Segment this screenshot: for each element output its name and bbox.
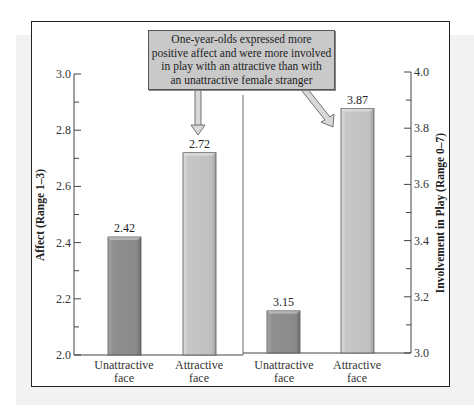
left-tick-label: 2.4 [56, 236, 71, 250]
callout-box: One-year-olds expressed more positive af… [148, 30, 335, 90]
bar-value-label: 2.72 [189, 137, 210, 151]
right-tick-label: 3.6 [414, 177, 429, 191]
right-tick-label: 3.0 [414, 346, 429, 360]
down-arrow-icon [191, 90, 205, 135]
category-label: face [114, 371, 134, 385]
bar-value-label: 3.87 [347, 93, 368, 107]
bar-affect-attractive [183, 153, 216, 355]
category-label: face [347, 371, 367, 385]
left-axis-title: Affect (Range 1–3) [34, 169, 47, 261]
left-tick-label: 3.0 [56, 67, 71, 81]
left-tick-label: 2.8 [56, 123, 71, 137]
left-tick-label: 2.2 [56, 292, 71, 306]
callout-line: One-year-olds expressed more [149, 33, 334, 47]
category-label: Attractive [333, 358, 381, 372]
bar-affect-unattractive [108, 237, 141, 355]
bar-play-attractive [341, 109, 374, 353]
callout-line: in play with an attractive than with [149, 60, 334, 74]
right-axis-title: Involvement in Play (Range 0–7) [434, 133, 447, 294]
right-tick-label: 3.4 [414, 234, 429, 248]
category-label: Attractive [175, 358, 223, 372]
category-label: face [189, 371, 209, 385]
bar-value-label: 3.15 [273, 295, 294, 309]
category-label: face [274, 371, 294, 385]
bar-value-label: 2.42 [114, 221, 135, 235]
right-tick-label: 3.2 [414, 290, 429, 304]
callout-line: positive affect and were more involved [149, 47, 334, 61]
category-label: Unattractive [94, 358, 153, 372]
bar-play-unattractive [267, 311, 300, 353]
right-tick-label: 3.8 [414, 121, 429, 135]
bars [108, 109, 374, 355]
category-label: Unattractive [254, 358, 313, 372]
right-tick-label: 4.0 [414, 65, 429, 79]
diagonal-arrow-icon [302, 88, 334, 127]
left-tick-label: 2.6 [56, 179, 71, 193]
left-tick-label: 2.0 [56, 348, 71, 362]
callout-line: an unattractive female stranger [149, 74, 334, 88]
